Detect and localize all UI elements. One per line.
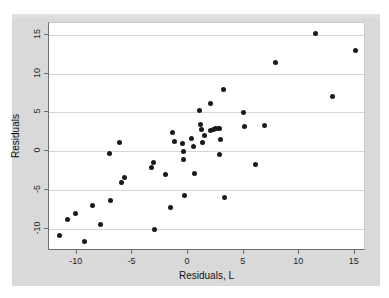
y-tick-mark: [44, 189, 48, 190]
scatter-point: [57, 233, 62, 238]
x-tick-label: 5: [240, 256, 245, 266]
scatter-point: [108, 198, 113, 203]
scatter-point: [273, 60, 278, 65]
y-tick-label: 10: [32, 66, 42, 80]
scatter-point: [152, 227, 157, 232]
scatter-point: [217, 126, 222, 131]
scatter-point: [181, 157, 186, 162]
scatter-point: [151, 160, 156, 165]
x-tick-mark: [76, 250, 77, 254]
y-tick-mark: [44, 228, 48, 229]
scatter-point: [199, 127, 204, 132]
scatter-point: [180, 141, 185, 146]
scatter-point: [253, 162, 258, 167]
gridline-y: [49, 229, 364, 230]
x-tick-mark: [354, 250, 355, 254]
x-tick-label: 10: [293, 256, 303, 266]
y-tick-mark: [44, 111, 48, 112]
x-tick-mark: [187, 250, 188, 254]
scatter-point: [82, 239, 87, 244]
scatter-point: [189, 136, 194, 141]
scatter-point: [191, 144, 196, 149]
y-tick-label: -5: [32, 182, 42, 196]
scatter-point: [107, 151, 112, 156]
gridline-y: [49, 190, 364, 191]
scatter-point: [221, 87, 226, 92]
scatter-point: [208, 101, 213, 106]
gridline-y: [49, 112, 364, 113]
y-tick-label: -10: [32, 221, 42, 235]
x-tick-mark: [298, 250, 299, 254]
scatter-point: [192, 171, 197, 176]
y-tick-label: 5: [32, 104, 42, 118]
scatter-point: [163, 172, 168, 177]
y-tick-mark: [44, 150, 48, 151]
scatter-point: [73, 211, 78, 216]
x-tick-mark: [243, 250, 244, 254]
scatter-point: [262, 123, 267, 128]
x-tick-mark: [131, 250, 132, 254]
scatter-point: [149, 165, 154, 170]
scatter-plot-area: [48, 22, 365, 250]
scatter-point: [170, 130, 175, 135]
y-tick-mark: [44, 73, 48, 74]
x-axis-title: Residuals, L: [48, 270, 365, 281]
scatter-point: [200, 140, 205, 145]
figure-top-gradient: [12, 14, 380, 20]
scatter-point: [98, 222, 103, 227]
scatter-point: [353, 48, 358, 53]
scatter-point: [181, 149, 186, 154]
scatter-point: [122, 175, 127, 180]
y-axis-title: Residuals: [10, 114, 21, 158]
y-tick-label: 15: [32, 27, 42, 41]
scatter-point: [90, 203, 95, 208]
scatter-point: [182, 193, 187, 198]
y-tick-mark: [44, 34, 48, 35]
scatter-point: [330, 94, 335, 99]
x-tick-label: 0: [185, 256, 190, 266]
scatter-point: [241, 110, 246, 115]
y-tick-label: 0: [32, 143, 42, 157]
x-tick-label: -5: [127, 256, 135, 266]
scatter-point: [119, 180, 124, 185]
scatter-point: [217, 152, 222, 157]
scatter-point: [168, 205, 173, 210]
x-tick-label: 15: [349, 256, 359, 266]
scatter-point: [222, 195, 227, 200]
x-tick-label: -10: [69, 256, 82, 266]
scatter-point: [172, 139, 177, 144]
screenshot-root: -10-5051015 151050-5-10 Residuals, L Res…: [0, 0, 389, 298]
scatter-point: [202, 133, 207, 138]
gridline-y: [49, 151, 364, 152]
scatter-point: [65, 217, 70, 222]
scatter-point: [218, 137, 223, 142]
gridline-y: [49, 74, 364, 75]
scatter-point: [117, 140, 122, 145]
scatter-point: [242, 124, 247, 129]
